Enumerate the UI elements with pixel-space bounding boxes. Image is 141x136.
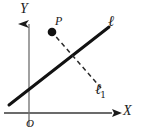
geometry-figure: Y X P O ℓ ℓ1 [0, 0, 141, 136]
y-axis-label: Y [20, 2, 28, 16]
point-p-label: P [55, 15, 62, 27]
x-axis-label: X [123, 104, 132, 118]
line-l1-label: ℓ1 [95, 82, 106, 100]
line-l1-label-subscript: 1 [100, 90, 106, 100]
line-l-label: ℓ [108, 14, 114, 29]
line-l [9, 27, 109, 105]
figure-canvas [0, 0, 141, 136]
point-p-marker [48, 28, 57, 37]
origin-label: O [26, 118, 34, 129]
